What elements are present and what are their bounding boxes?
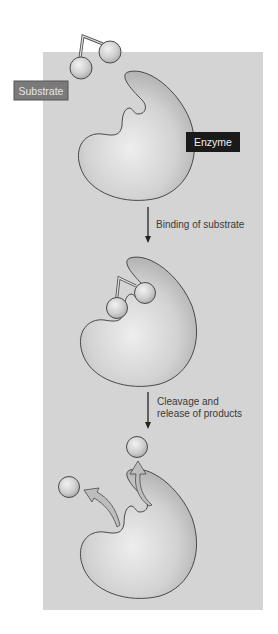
step-1-text: Binding of substrate — [156, 219, 245, 230]
substrate-ball-right — [99, 41, 121, 63]
substrate-ball-left — [70, 57, 92, 79]
substrate-label: Substrate — [14, 81, 68, 100]
bound-substrate-ball-right — [135, 283, 156, 304]
step-2-text-line2: release of products — [157, 408, 242, 419]
bound-substrate-ball-left — [107, 298, 128, 319]
substrate-label-text: Substrate — [19, 85, 64, 97]
step-2-text-line1: Cleavage and — [157, 396, 219, 407]
product-ball-left — [59, 477, 80, 498]
enzyme-mechanism-diagram: Substrate Enzyme Binding of substrate Cl… — [0, 0, 278, 634]
product-ball-top — [127, 437, 148, 458]
enzyme-label-text: Enzyme — [194, 136, 232, 148]
enzyme-label: Enzyme — [186, 132, 240, 152]
